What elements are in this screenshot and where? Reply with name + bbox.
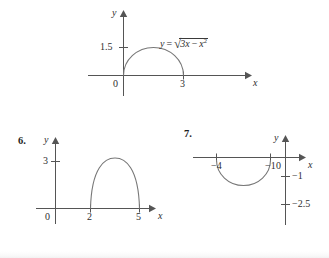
y-tick-label-3: 3: [43, 156, 48, 166]
x-tick-label-minus-1: −1: [265, 161, 276, 171]
figure-7-graphic: [180, 120, 329, 235]
curve-semicircle-upper: [124, 48, 184, 76]
y-axis: [282, 135, 289, 225]
origin-label: 0: [113, 79, 118, 89]
equation-coef-term: 3x: [180, 38, 189, 49]
y-axis: [120, 10, 127, 96]
problem-number-7: 7.: [184, 129, 192, 140]
problem-number-6: 6.: [18, 136, 26, 147]
curve-semicircle-lower: [217, 160, 271, 186]
y-axis-label: y: [44, 135, 48, 145]
x-axis: [193, 154, 306, 161]
page-bottom-edge: [0, 251, 329, 258]
y-axis: [52, 137, 59, 224]
equation-equals: =: [166, 38, 172, 49]
figure-top: 1.5 0 3 x y y=√3x−x2: [0, 0, 329, 110]
equation-radicand: 3x−x2: [179, 38, 208, 49]
x-tick-label-2: 2: [87, 212, 92, 222]
x-tick-label-5: 5: [136, 212, 141, 222]
figure-sheet: 1.5 0 3 x y y=√3x−x2 6.: [0, 0, 329, 258]
equation-minus: −: [192, 38, 198, 49]
equation-exponent: 2: [204, 37, 207, 44]
x-axis-label: x: [158, 211, 162, 221]
curve-arch: [91, 158, 140, 209]
figure-6: 6. 3 0 2 5 x y: [0, 120, 180, 235]
equation-lhs: y: [160, 38, 164, 49]
equation-label: y=√3x−x2: [160, 37, 208, 50]
x-axis-label: x: [253, 78, 257, 88]
y-tick-label-minus-2-5: −2.5: [292, 199, 310, 209]
x-axis-label: x: [308, 160, 312, 170]
y-tick-label-1-5: 1.5: [100, 42, 113, 52]
y-tick-label-minus-1: −1: [292, 171, 303, 181]
x-tick-label-3: 3: [180, 79, 185, 89]
origin-label: 0: [45, 212, 50, 222]
origin-label: 0: [276, 161, 281, 171]
figure-top-graphic: [0, 0, 329, 110]
y-axis-label: y: [274, 133, 278, 143]
y-axis-label: y: [112, 8, 116, 18]
x-tick-label-minus-4: −4: [211, 161, 222, 171]
figure-7: 7. −4 −1 0 −1 −2: [180, 120, 329, 235]
